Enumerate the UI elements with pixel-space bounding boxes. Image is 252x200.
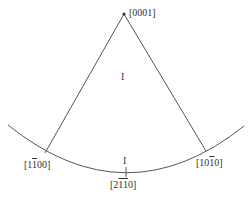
- left-corner-label: [1100]: [24, 160, 50, 170]
- right-corner-label: [1010]: [196, 158, 223, 168]
- apex-label: [0001]: [129, 8, 156, 18]
- left-edge-line: [45, 14, 124, 153]
- right-edge-line: [124, 14, 206, 151]
- region-label-upper: I: [121, 72, 124, 82]
- bottom-mid-label: [2110]: [110, 180, 136, 190]
- region-label-lower: I: [123, 156, 126, 166]
- apex-point: [122, 12, 125, 15]
- stereographic-triangle: [0, 0, 252, 200]
